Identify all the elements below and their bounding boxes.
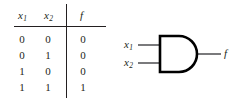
- table-cell-x1: 0: [16, 50, 28, 61]
- and-gate-icon: [124, 26, 240, 82]
- and-gate-body: [160, 36, 197, 72]
- table-cell-f: 0: [77, 66, 89, 77]
- table-header-x1: x1: [18, 10, 27, 22]
- table-cell-x1: 1: [16, 82, 28, 93]
- gate-output-label-f: f: [224, 48, 227, 59]
- table-cell-f: 0: [77, 50, 89, 61]
- table-cell-f: 1: [77, 82, 89, 93]
- table-cell-x1: 1: [16, 66, 28, 77]
- table-cell-x2: 1: [42, 50, 54, 61]
- gate-input-label-x2-subscript: 2: [129, 61, 133, 70]
- table-cell-x2: 0: [42, 66, 54, 77]
- gate-input-label-x1: x1: [124, 39, 133, 51]
- and-gate-diagram: x1 x2 f: [124, 26, 240, 82]
- table-column-divider: [66, 4, 67, 98]
- table-header-f: f: [80, 10, 83, 21]
- gate-input-label-x2: x2: [124, 57, 133, 69]
- table-cell-f: 0: [77, 34, 89, 45]
- table-cell-x2: 0: [42, 34, 54, 45]
- logic-gate-figure: x1 x2 f 0 0 0 0 1 0 1 0 0 1 1 1: [0, 0, 243, 104]
- table-header-x2: x2: [44, 10, 53, 22]
- table-cell-x1: 0: [16, 34, 28, 45]
- table-cell-x2: 1: [42, 82, 54, 93]
- table-header-x2-subscript: 2: [49, 14, 53, 23]
- table-header-rule: [14, 26, 106, 27]
- gate-input-label-x1-subscript: 1: [129, 43, 133, 52]
- truth-table: x1 x2 f 0 0 0 0 1 0 1 0 0 1 1 1: [14, 4, 110, 98]
- table-header-x1-subscript: 1: [23, 14, 27, 23]
